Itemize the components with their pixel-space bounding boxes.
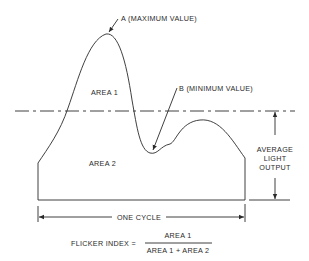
avg-label-2: LIGHT <box>264 154 287 163</box>
area2-label: AREA 2 <box>89 159 116 168</box>
formula-lhs: FLICKER INDEX = <box>71 239 136 248</box>
min-label: B (MINIMUM VALUE) <box>179 84 253 93</box>
formula-numerator: AREA 1 <box>165 231 192 240</box>
cycle-label: ONE CYCLE <box>117 213 161 222</box>
avg-label-3: OUTPUT <box>259 163 291 172</box>
area1-label: AREA 1 <box>91 88 118 97</box>
max-label: A (MAXIMUM VALUE) <box>121 14 197 23</box>
formula-denominator: AREA 1 + AREA 2 <box>147 246 210 255</box>
light-output-waveform <box>38 34 245 200</box>
flicker-index-diagram: A (MAXIMUM VALUE) B (MINIMUM VALUE) AREA… <box>0 0 309 261</box>
max-pointer <box>109 19 118 32</box>
avg-label-1: AVERAGE <box>257 145 293 154</box>
